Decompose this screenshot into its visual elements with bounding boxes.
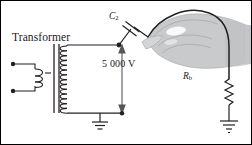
hand: [142, 14, 252, 68]
ground-node-dot: [120, 111, 124, 115]
resistor-label: Rb: [183, 72, 192, 82]
transformer-core: [54, 44, 59, 113]
transformer-label: Transformer: [12, 32, 70, 44]
capacitor-label-subscript: 2: [115, 14, 118, 21]
ground-resistor: [220, 121, 238, 133]
primary-terminal-top: [11, 62, 15, 66]
primary-terminal-bottom: [11, 89, 15, 93]
circuit-svg: [1, 1, 252, 145]
capacitor-label: C2: [109, 12, 119, 22]
voltage-arrow: [119, 45, 125, 113]
resistor-rb: [225, 79, 233, 121]
circuit-diagram-figure: Transformer 5 000 V C2 Rb: [0, 0, 252, 145]
transformer-primary: [13, 64, 51, 91]
secondary-output-wires: [67, 45, 122, 113]
voltage-label: 5 000 V: [102, 59, 135, 69]
resistor-label-subscript: b: [189, 74, 192, 81]
transformer-secondary: [60, 45, 67, 113]
ground-transformer: [92, 113, 108, 129]
